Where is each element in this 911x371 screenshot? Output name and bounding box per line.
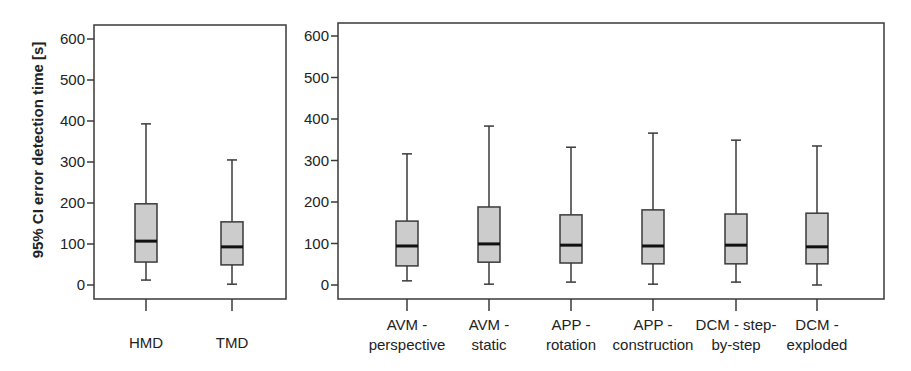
boxplot-avm-perspective (396, 154, 418, 281)
y-tick-label: 100 (304, 235, 329, 252)
boxplot-hmd (135, 124, 157, 280)
x-category-label: exploded (787, 336, 848, 353)
y-tick-label: 300 (60, 153, 85, 170)
x-category-label: perspective (369, 336, 446, 353)
iqr-box (560, 215, 582, 263)
boxplot-tmd (221, 160, 243, 284)
x-category-label: AVM - (387, 316, 428, 333)
y-tick-label: 600 (60, 30, 85, 47)
iqr-box (221, 222, 243, 265)
y-tick-label: 600 (304, 27, 329, 44)
x-category-label: by-step (711, 336, 760, 353)
boxplot-app-construction (642, 133, 664, 284)
y-tick-label: 100 (60, 235, 85, 252)
boxplot-avm-static (478, 126, 500, 284)
y-tick-label: 500 (304, 69, 329, 86)
iqr-box (396, 221, 418, 266)
x-category-label: APP - (634, 316, 673, 333)
panel-display-type: 0100200300400500600HMDTMD (60, 25, 286, 351)
panel-visualization-method: 0100200300400500600AVM -perspectiveAVM -… (304, 23, 884, 353)
y-tick-label: 400 (60, 112, 85, 129)
plot-frame (338, 23, 884, 299)
y-tick-label: 200 (304, 193, 329, 210)
y-tick-label: 200 (60, 194, 85, 211)
x-category-label: DCM - (795, 316, 838, 333)
y-tick-label: 0 (321, 276, 329, 293)
x-category-label: construction (613, 336, 694, 353)
iqr-box (135, 204, 157, 262)
x-category-label: TMD (216, 334, 249, 351)
iqr-box (478, 207, 500, 262)
iqr-box (806, 213, 828, 264)
boxplot-app-rotation (560, 147, 582, 282)
x-category-label: AVM - (469, 316, 510, 333)
y-tick-label: 300 (304, 152, 329, 169)
plot-frame (94, 25, 286, 299)
iqr-box (725, 214, 747, 264)
iqr-box (642, 210, 664, 264)
y-tick-label: 0 (77, 276, 85, 293)
boxplot-chart: 0100200300400500600HMDTMD 01002003004005… (0, 0, 911, 371)
boxplot-dcm-exploded (806, 146, 828, 285)
x-category-label: HMD (129, 334, 163, 351)
y-tick-label: 400 (304, 110, 329, 127)
x-category-label: DCM - step- (696, 316, 777, 333)
boxplot-dcm-step-by-step (725, 140, 747, 282)
x-category-label: APP - (552, 316, 591, 333)
x-category-label: static (471, 336, 507, 353)
x-category-label: rotation (546, 336, 596, 353)
y-tick-label: 500 (60, 71, 85, 88)
